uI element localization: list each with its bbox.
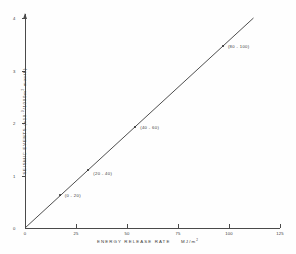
- y-axis-label-mid: /1000m: [22, 91, 27, 110]
- point-label: (40 - 60): [140, 125, 159, 130]
- y-tick-label: 0: [13, 226, 16, 231]
- x-tick-mark: [76, 224, 77, 228]
- x-tick-label: 75: [175, 231, 180, 236]
- x-tick-label: 0: [24, 231, 27, 236]
- point-marker: [59, 194, 61, 196]
- x-axis-label-unit: MJ/m: [181, 239, 196, 244]
- y-axis-label-exponent-2: 2: [21, 88, 25, 91]
- y-axis-label-end: month): [22, 68, 27, 88]
- x-tick-label: 125: [276, 231, 284, 236]
- y-axis-label-main: SEISMIC EVENTS (x10: [22, 114, 27, 175]
- point-label: (80 - 100): [228, 44, 250, 49]
- y-tick-mark: [22, 18, 26, 19]
- y-tick-label: 4: [13, 16, 16, 21]
- x-tick-mark: [178, 224, 179, 228]
- x-tick-mark: [25, 224, 26, 228]
- y-tick-label: 2: [13, 121, 16, 126]
- x-axis-label: ENERGY RELEASE RATE MJ/m2: [97, 238, 199, 244]
- point-label: (20 - 40): [93, 171, 112, 176]
- x-tick-mark: [127, 224, 128, 228]
- y-axis-label-exponent-1: -3: [21, 110, 25, 114]
- point-label: (0 - 20): [65, 193, 81, 198]
- y-axis-label: SEISMIC EVENTS (x10-3/1000m2 month): [21, 51, 27, 191]
- x-tick-label: 100: [225, 231, 233, 236]
- x-tick-mark: [280, 224, 281, 228]
- point-marker: [87, 169, 89, 171]
- x-axis-label-unit-exponent: 2: [196, 238, 199, 242]
- y-tick-label: 1: [13, 173, 16, 178]
- seismic-events-chart: 0255075100125 01234 (0 - 20)(20 - 40)(40…: [0, 0, 296, 254]
- point-marker: [134, 126, 136, 128]
- x-axis-label-main: ENERGY RELEASE RATE: [97, 239, 170, 244]
- point-marker: [222, 45, 224, 47]
- x-tick-label: 25: [73, 231, 78, 236]
- x-tick-label: 50: [124, 231, 129, 236]
- x-tick-mark: [229, 224, 230, 228]
- y-tick-label: 3: [13, 68, 16, 73]
- plot-area: 0255075100125 01234 (0 - 20)(20 - 40)(40…: [0, 0, 296, 254]
